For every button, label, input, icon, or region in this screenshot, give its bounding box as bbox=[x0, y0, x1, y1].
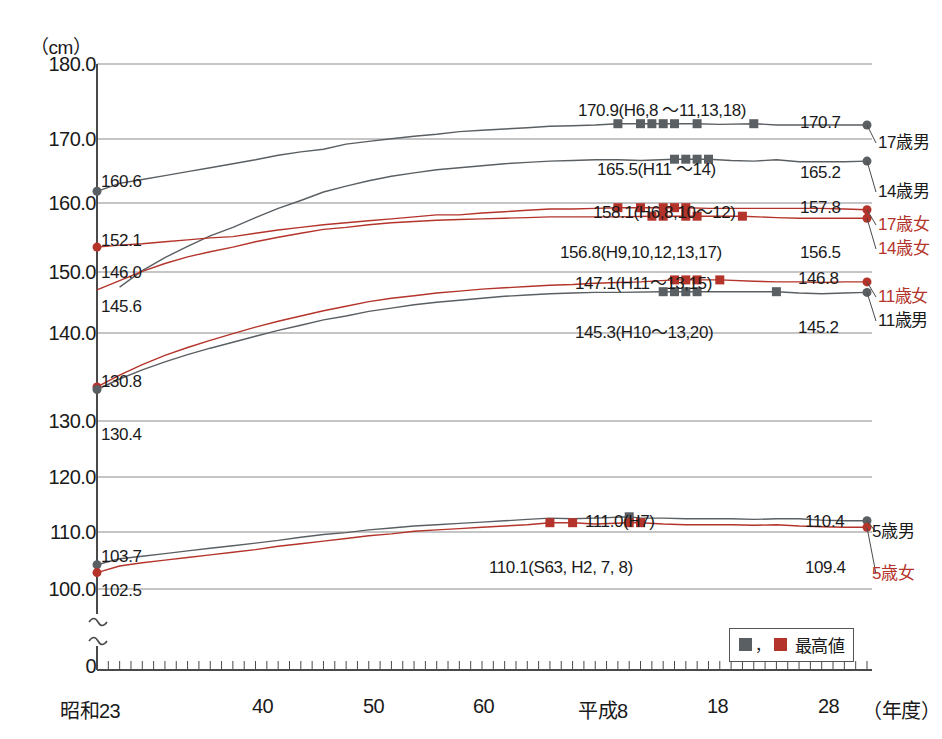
max-value-marker bbox=[715, 275, 724, 284]
start-label-146-0: 146.0 bbox=[101, 263, 142, 283]
leader-line bbox=[867, 161, 876, 192]
series-line bbox=[97, 216, 867, 290]
peak-annotation-17m: 170.9(H6,8 ～11,13,18) bbox=[578, 96, 746, 121]
end-label-11m: 145.2 bbox=[798, 318, 839, 338]
start-label-152-1: 152.1 bbox=[101, 231, 142, 251]
gridlines bbox=[97, 64, 872, 589]
series-startpoint-dot bbox=[93, 568, 102, 577]
peak-annotation-14m: 165.5(H11 ～14) bbox=[597, 155, 716, 180]
series-label-14m: 14歳男 bbox=[878, 177, 929, 202]
end-label-5m: 110.4 bbox=[805, 512, 844, 532]
series-label-17m: 17歳男 bbox=[878, 128, 929, 153]
legend: ， 最高値 bbox=[729, 628, 854, 662]
end-label-17f: 157.8 bbox=[800, 198, 841, 218]
end-label-11f: 146.8 bbox=[798, 269, 839, 289]
series-line bbox=[97, 517, 867, 565]
leader-line bbox=[867, 292, 876, 321]
start-label-160-6: 160.6 bbox=[101, 172, 142, 192]
start-label-102-5: 102.5 bbox=[101, 581, 142, 601]
series-label-17f: 17歳女 bbox=[878, 210, 929, 235]
axis-break-icon bbox=[89, 619, 107, 645]
peak-annotation-11f: 147.1(H11～13,15) bbox=[575, 269, 712, 294]
max-value-marker bbox=[738, 212, 747, 221]
series-line bbox=[120, 159, 867, 287]
max-value-marker bbox=[772, 287, 781, 296]
peak-annotation-11m: 145.3(H10～13,20) bbox=[575, 318, 713, 343]
series-line bbox=[97, 208, 867, 247]
start-label-130-8: 130.8 bbox=[101, 372, 142, 392]
end-label-5f: 109.4 bbox=[805, 558, 846, 578]
legend-comma: ， bbox=[755, 634, 770, 655]
series-label-14f: 14歳女 bbox=[878, 234, 929, 259]
series-line bbox=[97, 124, 867, 192]
series-lines-layer bbox=[97, 124, 867, 573]
max-value-marker bbox=[545, 518, 554, 527]
end-label-14f: 156.5 bbox=[800, 243, 841, 263]
x-axis-minor-ticks bbox=[108, 661, 867, 670]
max-value-marker bbox=[568, 518, 577, 527]
leader-lines-layer bbox=[867, 125, 876, 574]
leader-line bbox=[867, 125, 876, 143]
start-label-145-6: 145.6 bbox=[101, 297, 142, 317]
legend-label: 最高値 bbox=[795, 632, 845, 657]
end-label-14m: 165.2 bbox=[800, 163, 841, 183]
peak-annotation-17f: 158.1(H6,8,10～12) bbox=[593, 198, 736, 223]
series-label-5f: 5歳女 bbox=[872, 559, 914, 584]
peak-annotation-5m: 111.0(H7) bbox=[585, 512, 654, 532]
legend-red-square-icon bbox=[774, 638, 787, 651]
peak-annotation-5f: 110.1(S63, H2, 7, 8) bbox=[489, 558, 633, 578]
chart-container: （cm） 180.0 170.0 160.0 150.0 140.0 130.0… bbox=[0, 0, 942, 739]
start-label-130-4: 130.4 bbox=[101, 425, 142, 445]
series-label-11m: 11歳男 bbox=[878, 306, 928, 331]
series-line bbox=[97, 292, 867, 390]
max-value-marker bbox=[749, 119, 758, 128]
end-label-17m: 170.7 bbox=[800, 113, 841, 133]
series-label-11f: 11歳女 bbox=[878, 282, 928, 307]
start-label-103-7: 103.7 bbox=[101, 547, 142, 567]
legend-gray-square-icon bbox=[739, 638, 752, 651]
series-label-5m: 5歳男 bbox=[872, 517, 914, 542]
peak-annotation-14f: 156.8(H9,10,12,13,17) bbox=[560, 243, 722, 263]
